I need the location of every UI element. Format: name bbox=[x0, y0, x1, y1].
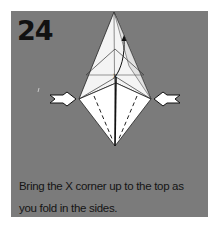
left-push-arrow-icon bbox=[50, 92, 76, 106]
right-push-arrow-icon bbox=[154, 92, 180, 106]
instruction-panel: 24 X bbox=[11, 11, 208, 217]
paper-model bbox=[79, 12, 151, 146]
instruction-text: Bring the X corner up to the top as you … bbox=[19, 175, 204, 219]
